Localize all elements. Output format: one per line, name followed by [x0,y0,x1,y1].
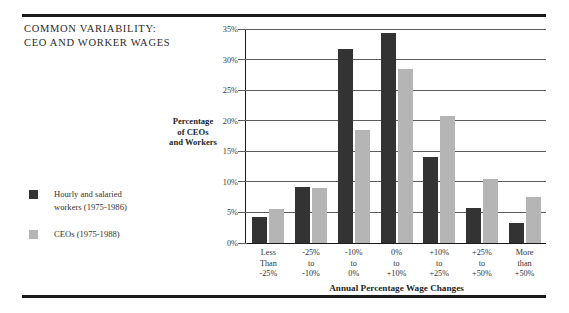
x-tick-label-line: +10% [418,248,460,259]
x-tick-label: Morethan+50% [504,248,546,280]
x-tick-label-line: +50% [461,269,503,280]
y-tick-label-10pct: 10% [223,177,238,186]
y-tick-label-15pct: 15% [223,147,238,156]
y-axis-title-line-2: of CEOs [155,127,231,138]
bottom-rule [22,295,546,298]
x-tick-label-line: Than [247,259,289,270]
bar [526,197,541,243]
bar [466,208,481,243]
bar [483,179,498,243]
page-title-line-2: CEO AND WORKER WAGES [24,36,224,50]
y-tick-label-30pct: 30% [223,55,238,64]
y-tick-label-5pct: 5% [227,208,238,217]
x-tick-label-line: than [504,259,546,270]
x-tick-label-line: to [333,259,375,270]
x-tick-label-line: More [504,248,546,259]
bar-group [336,29,372,243]
x-tick-label-line: to [376,259,418,270]
y-tick-stub-5pct [238,212,247,213]
y-tick-stub-30pct [238,59,247,60]
x-tick-label-line: -25% [247,269,289,280]
bar-group [507,29,543,243]
page-title-line-1: COMMON VARIABILITY: [24,22,224,36]
bar [440,116,455,243]
bar [381,33,396,243]
x-tick-label: LessThan-25% [247,248,289,280]
bar-group [250,29,286,243]
y-tick-stub-0pct [238,243,247,244]
y-axis-title: Percentage of CEOs and Workers [155,116,231,148]
y-axis-title-line-1: Percentage [155,116,231,127]
bar [295,187,310,243]
x-axis-title: Annual Percentage Wage Changes [247,283,546,293]
x-tick-label-line: -10% [290,269,332,280]
bar [509,223,524,243]
page-title: COMMON VARIABILITY: CEO AND WORKER WAGES [24,22,224,49]
y-tick-label-25pct: 25% [223,86,238,95]
x-tick-label-line: to [461,259,503,270]
y-tick-label-0pct: 0% [227,239,238,248]
legend: Hourly and salaried workers (1975-1986) … [29,188,219,267]
y-tick-stub-10pct [238,181,247,182]
bar-group [379,29,415,243]
bar-group [293,29,329,243]
x-tick-label: -10%to0% [333,248,375,280]
x-tick-label-line: +25% [418,269,460,280]
bar [269,209,284,243]
x-tick-label: -25%to-10% [290,248,332,280]
y-tick-stub-20pct [238,120,247,121]
plot-area: 0%5%10%15%20%25%30%35% [247,29,546,243]
bar [423,157,438,243]
y-tick-stub-15pct [238,151,247,152]
x-axis-tick-labels: LessThan-25%-25%to-10%-10%to0%0%to+10%+1… [247,248,546,282]
y-tick-stub-35pct [238,29,247,30]
bar [398,69,413,243]
x-tick-label-line: +50% [504,269,546,280]
x-tick-label-line: 0% [333,269,375,280]
x-tick-label-line: 0% [376,248,418,259]
y-tick-label-20pct: 20% [223,116,238,125]
x-tick-label: 0%to+10% [376,248,418,280]
bar [338,49,353,243]
y-axis-title-line-3: and Workers [155,137,231,148]
x-tick-label: +25%to+50% [461,248,503,280]
x-tick-label-line: +10% [376,269,418,280]
x-tick-label-line: +25% [461,248,503,259]
bar [312,188,327,243]
figure-panel: COMMON VARIABILITY: CEO AND WORKER WAGES… [0,0,569,313]
bar [355,130,370,243]
legend-label-ceos-line-1: CEOs (1975-1988) [54,228,219,241]
legend-label-workers-line-1: Hourly and salaried [54,188,219,201]
x-tick-label-line: -25% [290,248,332,259]
x-tick-label-line: -10% [333,248,375,259]
legend-item-workers: Hourly and salaried workers (1975-1986) [29,188,219,213]
y-tick-label-35pct: 35% [223,25,238,34]
top-rule [22,14,546,17]
y-tick-stub-25pct [238,90,247,91]
legend-label-workers: Hourly and salaried workers (1975-1986) [54,188,219,213]
bar [252,217,267,243]
legend-swatch-ceos [29,230,38,239]
y-axis-line [245,29,246,243]
x-tick-label-line: Less [247,248,289,259]
x-tick-label: +10%to+25% [418,248,460,280]
legend-label-ceos: CEOs (1975-1988) [54,228,219,241]
bar-group [464,29,500,243]
legend-item-ceos: CEOs (1975-1988) [29,228,219,252]
legend-label-workers-line-2: workers (1975-1986) [54,201,219,214]
bar-group [421,29,457,243]
x-tick-label-line: to [290,259,332,270]
legend-swatch-workers [29,190,38,199]
x-tick-label-line: to [418,259,460,270]
